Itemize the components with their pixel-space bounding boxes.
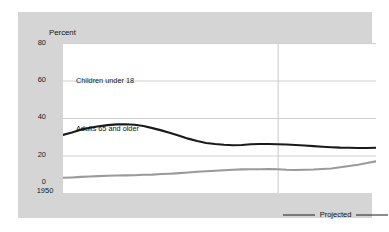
legend-label-projected: Projected [283, 209, 388, 221]
plot-area: Children under 18 Adults 65 and older [63, 43, 376, 193]
series-label-elderly: Adults 65 and older [76, 124, 139, 133]
y-tick-label-40: 40 [24, 113, 46, 121]
x-tick-label-1950: 1950 [30, 187, 60, 195]
chart-panel: Percent 80 60 40 20 0 1950 1960 1970 198… [18, 12, 372, 218]
y-tick-label-20: 20 [24, 151, 46, 159]
line-adults-65-and-older [63, 161, 376, 178]
y-tick-label-60: 60 [24, 76, 46, 84]
series-label-children: Children under 18 [76, 76, 134, 85]
legend-projected: Projected [283, 209, 388, 221]
axis-title-percent: Percent [49, 28, 76, 37]
chart-figure: Percent 80 60 40 20 0 1950 1960 1970 198… [0, 0, 389, 232]
y-tick-label-0: 0 [24, 178, 46, 186]
y-tick-label-80: 80 [24, 39, 46, 47]
series-canvas [63, 43, 376, 193]
